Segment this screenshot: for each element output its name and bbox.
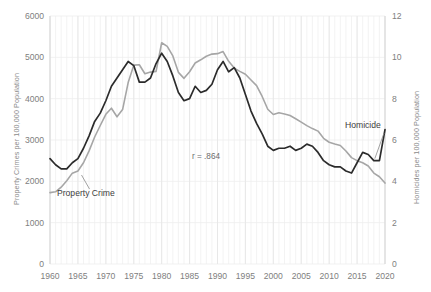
x-axis-tick-2000: 2000 [264, 271, 283, 281]
y-axis-left-title: Property Crimes per 100,000 Population [12, 73, 21, 205]
chart-canvas: 0100020003000400050006000 024681012 1960… [0, 0, 431, 292]
y-axis-right-tick-2: 2 [392, 218, 397, 228]
x-axis-tick-1970: 1970 [96, 271, 115, 281]
property-crime-label-leader-line [82, 175, 90, 189]
y-axis-left-tick-3000: 3000 [25, 135, 44, 145]
y-axis-right-title: Homicides per 100,000 Population [412, 91, 421, 204]
y-axis-right-tick-0: 0 [392, 259, 397, 269]
y-axis-left-tick-0: 0 [39, 259, 44, 269]
crime-trends-chart: 0100020003000400050006000 024681012 1960… [0, 0, 431, 292]
x-axis-tick-1960: 1960 [40, 271, 59, 281]
x-axis-ticks: 1960196519701975198019851990199520002005… [40, 271, 394, 281]
y-axis-right-tick-12: 12 [392, 11, 402, 21]
y-axis-left-tick-4000: 4000 [25, 94, 44, 104]
y-axis-left-tick-6000: 6000 [25, 11, 44, 21]
y-axis-right-tick-6: 6 [392, 135, 397, 145]
x-axis-tick-2005: 2005 [292, 271, 311, 281]
x-axis-tick-2020: 2020 [375, 271, 394, 281]
y-axis-left-tick-1000: 1000 [25, 218, 44, 228]
x-axis-tick-1995: 1995 [236, 271, 255, 281]
x-axis-tick-2015: 2015 [348, 271, 367, 281]
y-axis-left-ticks: 0100020003000400050006000 [25, 11, 44, 269]
correlation-annotation: r = .864 [192, 152, 220, 161]
series-label-homicide: Homicide [345, 120, 381, 130]
y-axis-right-ticks: 024681012 [392, 11, 402, 269]
x-axis-tick-1965: 1965 [68, 271, 87, 281]
y-axis-right-tick-8: 8 [392, 94, 397, 104]
x-axis-tick-1975: 1975 [124, 271, 143, 281]
series-label-property-crime: Property Crime [57, 188, 115, 198]
y-axis-left-tick-2000: 2000 [25, 176, 44, 186]
y-axis-right-tick-4: 4 [392, 176, 397, 186]
y-axis-right-tick-10: 10 [392, 52, 402, 62]
x-axis-tick-1985: 1985 [180, 271, 199, 281]
y-axis-left-tick-5000: 5000 [25, 52, 44, 62]
x-axis-tick-1980: 1980 [152, 271, 171, 281]
x-axis-tick-2010: 2010 [320, 271, 339, 281]
x-axis-tick-1990: 1990 [208, 271, 227, 281]
